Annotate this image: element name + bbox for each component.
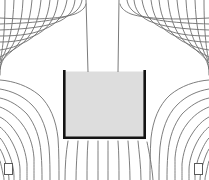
fieldline-bf-1 <box>65 141 68 180</box>
marker-bottom-left <box>5 164 13 175</box>
fieldline-bf-7 <box>128 141 130 180</box>
fieldlines-bottom-fan <box>65 141 153 180</box>
lead-line-left <box>86 0 88 72</box>
lead-lines <box>86 0 119 72</box>
fieldline-ul-6 <box>0 0 14 75</box>
fieldline-ur-2 <box>159 0 209 50</box>
fieldline-ul-7 <box>0 0 5 61</box>
fieldline-bf-6 <box>118 141 119 180</box>
fieldlines-upper-right <box>120 0 209 75</box>
fieldline-bf-2 <box>76 141 78 180</box>
fieldline-bf-3 <box>87 141 88 180</box>
fieldline-ur-6 <box>195 0 209 75</box>
fieldline-bf-8 <box>138 141 141 180</box>
fieldline-lr-4 <box>175 107 209 180</box>
vessel-melt-fill <box>64 72 144 140</box>
vessel <box>64 70 144 139</box>
fieldlines-upper-left <box>0 0 86 75</box>
fieldline-ul-9 <box>0 0 75 30</box>
fieldline-lr-9 <box>205 161 209 180</box>
fieldline-ul-2 <box>0 0 50 50</box>
fieldline-ur-9 <box>134 0 209 30</box>
diagram-canvas <box>0 0 209 180</box>
lead-line-right <box>118 0 119 72</box>
fieldline-ll-9 <box>0 161 4 180</box>
marker-bottom-right <box>195 164 203 175</box>
field-line-diagram <box>0 0 209 180</box>
fieldline-ur-7 <box>204 0 209 61</box>
